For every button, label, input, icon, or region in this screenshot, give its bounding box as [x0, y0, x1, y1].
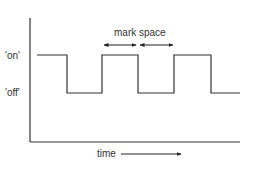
- mark-space-label: mark space: [114, 28, 166, 38]
- square-wave: [37, 55, 240, 93]
- time-axis-label: time: [97, 149, 116, 159]
- square-wave-diagram: [0, 0, 253, 172]
- on-level-label: 'on': [5, 51, 20, 61]
- off-level-label: 'off': [5, 88, 20, 98]
